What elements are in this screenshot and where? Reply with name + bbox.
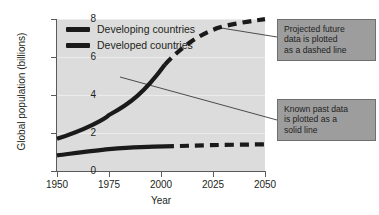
callout-projected-future: Projected future data is plotted as a da… [277, 19, 376, 61]
callout-projected-line-1: Projected future [284, 24, 370, 34]
y-tick-label-0: 0 [56, 166, 96, 176]
x-axis-title: Year [121, 195, 201, 206]
chart-legend: Developing countries Developed countries [66, 22, 195, 54]
legend-label-developed: Developed countries [97, 39, 193, 51]
x-tick-label-2000: 2000 [141, 179, 181, 190]
x-tick-2025 [213, 172, 214, 177]
x-tick-label-1950: 1950 [37, 179, 77, 190]
y-axis-title: Global population (billions) [16, 17, 27, 167]
legend-swatch-icon-developed [66, 43, 90, 48]
y-tick-label-4: 4 [56, 90, 96, 100]
x-tick-label-2025: 2025 [193, 179, 233, 190]
population-growth-chart: 8 6 4 2 0 1950 1975 2000 2025 2050 Globa… [0, 0, 379, 215]
x-tick-2050 [265, 172, 266, 177]
x-tick-1975 [109, 172, 110, 177]
x-tick-label-1975: 1975 [89, 179, 129, 190]
legend-item-developing: Developing countries [66, 22, 195, 36]
legend-label-developing: Developing countries [97, 23, 195, 35]
callout-known-line-1: Known past data [284, 104, 370, 114]
x-tick-label-2050: 2050 [245, 179, 285, 190]
callout-projected-line-3: as a dashed line [284, 45, 370, 55]
callout-projected-line-2: data is plotted [284, 34, 370, 44]
legend-item-developed: Developed countries [66, 38, 195, 52]
x-tick-1950 [57, 172, 58, 177]
legend-swatch-icon-developing [66, 27, 90, 32]
callout-known-line-3: solid line [284, 125, 370, 135]
callout-known-line-2: is plotted as a [284, 114, 370, 124]
x-tick-2000 [161, 172, 162, 177]
callout-known-past: Known past data is plotted as a solid li… [277, 99, 376, 141]
y-tick-label-2: 2 [56, 128, 96, 138]
